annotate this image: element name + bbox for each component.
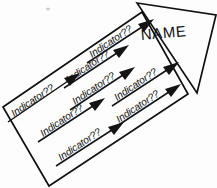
- indicator-label: Indicator??: [56, 126, 103, 163]
- diagram-canvas: Indicator?? Indicator?? Indicator?? Indi…: [0, 0, 217, 188]
- indicator-row-2: Indicator?? Indicator?? Indicator??: [38, 62, 179, 142]
- banner-name-label: NAME: [140, 22, 187, 43]
- indicator-label: Indicator??: [38, 102, 85, 139]
- scan-speck: [46, 8, 50, 11]
